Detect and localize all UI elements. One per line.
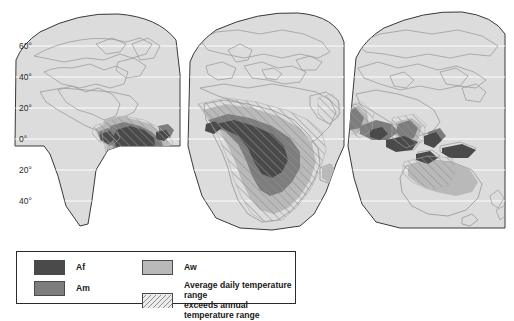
legend-item-af: Af xyxy=(34,260,85,275)
legend-label-aw: Aw xyxy=(184,262,197,272)
world-climate-map: 60° 40° 20° 0° 20° 40° xyxy=(0,0,514,240)
legend-item-temperature-range: Average daily temperature range exceeds … xyxy=(142,280,295,321)
legend-swatch-am xyxy=(34,281,65,296)
legend-item-aw: Aw xyxy=(142,260,197,275)
legend-swatch-af xyxy=(34,260,65,275)
lat-label: 20° xyxy=(19,165,32,175)
legend-label-am: Am xyxy=(76,283,90,293)
lat-label: 20° xyxy=(19,103,32,113)
lat-label: 0° xyxy=(19,134,27,144)
map-svg: 60° 40° 20° 0° 20° 40° xyxy=(0,0,514,240)
map-legend: Af Am Aw Average d xyxy=(16,251,296,304)
legend-label-af: Af xyxy=(76,262,85,272)
legend-swatch-hatch xyxy=(142,293,173,308)
hatch-pattern-icon xyxy=(143,295,172,308)
lat-label: 40° xyxy=(19,196,32,206)
legend-item-am: Am xyxy=(34,281,90,296)
lat-label: 40° xyxy=(19,72,32,82)
lobe-asia xyxy=(344,12,512,228)
legend-label-temperature-range: Average daily temperature range exceeds … xyxy=(184,280,295,321)
legend-swatch-aw xyxy=(142,260,173,275)
lat-label: 60° xyxy=(19,41,32,51)
